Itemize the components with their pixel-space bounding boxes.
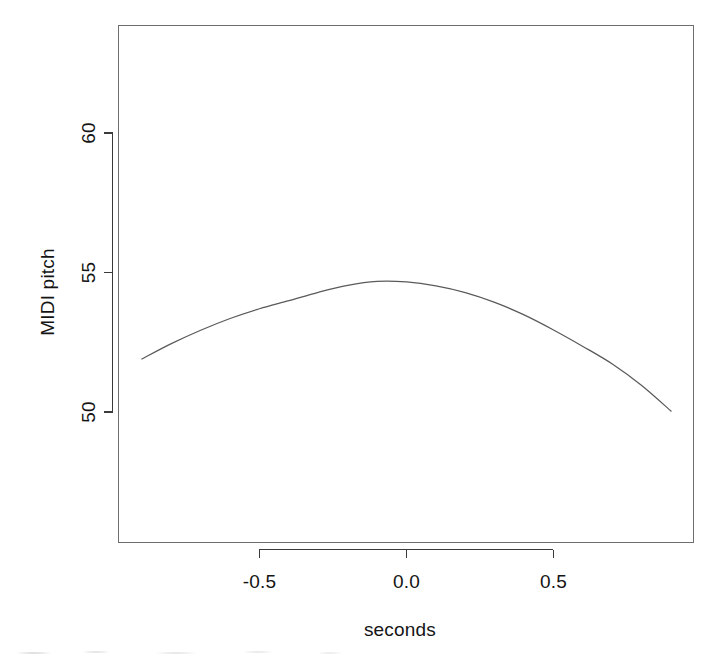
x-axis: [259, 550, 554, 559]
y-tick-label-55: 55: [78, 262, 99, 284]
x-axis-title: seconds: [364, 619, 436, 640]
x-tick-label-0p0: 0.0: [393, 571, 420, 592]
y-axis-title: MIDI pitch: [37, 248, 58, 336]
y-tick-label-60: 60: [78, 122, 99, 144]
x-tick-label-neg0p5: -0.5: [243, 571, 277, 592]
y-tick-label-50: 50: [78, 401, 99, 423]
pitch-contour-curve: [142, 281, 671, 411]
x-tick-label-0p5: 0.5: [540, 571, 567, 592]
figure-canvas: 60 55 50 MIDI pitch -0.5 0.0 0.5 seconds: [0, 0, 718, 659]
y-axis: [104, 133, 113, 412]
plot-frame-box: [119, 26, 694, 543]
chart-plot: 60 55 50 MIDI pitch -0.5 0.0 0.5 seconds: [0, 0, 718, 659]
